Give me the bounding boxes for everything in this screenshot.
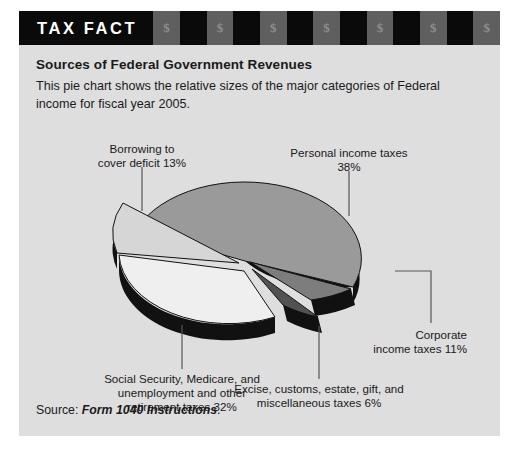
figure-description: This pie chart shows the relative sizes …	[36, 77, 476, 113]
dollar-cell-blank	[393, 11, 420, 45]
dollar-cell-blank	[180, 11, 207, 45]
label-social-line2: unemployment and other	[118, 386, 246, 399]
label-personal-line1: Personal income taxes	[290, 146, 407, 159]
label-personal-line2: 38%	[337, 160, 360, 173]
source-suffix: .	[217, 403, 220, 417]
dollar-icon: $	[420, 11, 447, 45]
tax-fact-header-title: TAX FACT	[19, 11, 153, 45]
label-excise-line2: miscellaneous taxes 6%	[257, 396, 381, 409]
dollar-icon: $	[207, 11, 234, 45]
dollar-icon: $	[313, 11, 340, 45]
tax-fact-figure: TAX FACT $ $ $ $ $ $ $ Sources of Federa…	[19, 11, 500, 436]
label-borrowing-line2: cover deficit 13%	[98, 156, 186, 169]
leader-corporate	[395, 271, 431, 323]
dollar-cell-blank	[340, 11, 367, 45]
source-title: Form 1040 Instructions	[82, 403, 217, 417]
label-corporate-line1: Corporate	[415, 328, 467, 341]
tax-fact-header: TAX FACT $ $ $ $ $ $ $	[19, 11, 500, 45]
dollar-cell-blank	[287, 11, 314, 45]
figure-source: Source: Form 1040 Instructions.	[36, 403, 221, 417]
label-borrowing-line1: Borrowing to	[109, 142, 174, 155]
dollar-cell-blank	[447, 11, 474, 45]
pie-chart: Personal income taxes 38% Borrowing to c…	[19, 111, 500, 411]
label-corporate-line2: income taxes 11%	[373, 342, 467, 355]
dollar-icon: $	[367, 11, 394, 45]
dollar-icon: $	[260, 11, 287, 45]
figure-title: Sources of Federal Government Revenues	[36, 57, 312, 72]
dollar-cell-blank	[233, 11, 260, 45]
source-prefix: Source:	[36, 403, 82, 417]
dollar-pattern-strip: $ $ $ $ $ $ $	[153, 11, 500, 45]
label-social-line1: Social Security, Medicare, and	[104, 372, 260, 385]
dollar-icon: $	[153, 11, 180, 45]
dollar-icon: $	[473, 11, 500, 45]
